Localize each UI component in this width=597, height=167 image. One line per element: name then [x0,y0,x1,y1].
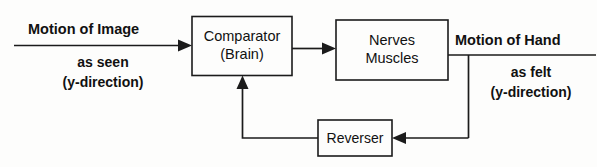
output-label-line2: as felt [511,64,552,80]
label-input: Motion of Image as seen (y-direction) [28,21,143,90]
arrowhead-right-icon [322,43,336,55]
comparator-label-line1: Comparator [204,28,281,44]
reverser-label: Reverser [327,130,384,146]
input-label-line3: (y-direction) [63,74,144,90]
diagram-canvas: Comparator (Brain) Nerves Muscles [0,0,597,167]
block-reverser: Reverser [318,120,392,156]
output-label-line1: Motion of Hand [455,32,561,48]
block-comparator: Comparator (Brain) [192,17,292,76]
block-diagram: Comparator (Brain) Nerves Muscles [0,0,597,167]
connector-reverser-to-comparator [237,76,319,139]
output-label-line3: (y-direction) [491,84,572,100]
connector-output-to-reverser [392,132,469,144]
input-label-line2: as seen [77,54,128,70]
nerves-label-line1: Nerves [369,32,415,48]
block-nerves-muscles: Nerves Muscles [336,20,448,80]
arrowhead-left-icon [392,132,406,144]
input-label-line1: Motion of Image [28,21,139,37]
connector-input-to-comparator [14,40,192,52]
connector-comparator-to-nerves [292,43,336,55]
nerves-label-line2: Muscles [365,50,418,66]
arrowhead-up-icon [237,76,249,90]
comparator-label-line2: (Brain) [220,46,264,62]
feedback-path [243,89,319,138]
arrowhead-right-icon [178,40,192,52]
label-output: Motion of Hand as felt (y-direction) [455,32,571,100]
